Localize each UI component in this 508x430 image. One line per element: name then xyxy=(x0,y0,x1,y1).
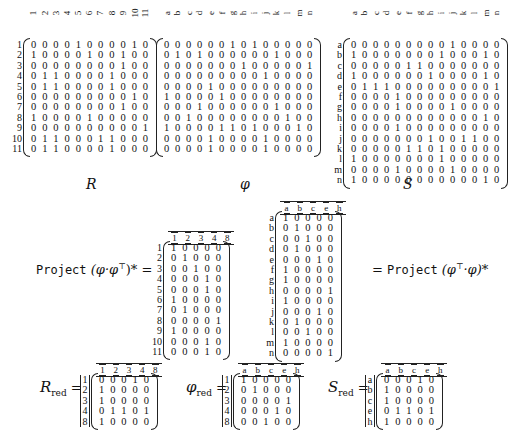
matrix-cell: 0 xyxy=(314,348,325,358)
matrix-row: 00000000010000 xyxy=(348,40,502,50)
column-label: h xyxy=(425,8,436,18)
matrix-cell: 0 xyxy=(172,144,183,154)
project-word-left: Project xyxy=(36,263,87,277)
matrix-cell: 0 xyxy=(50,123,61,133)
column-label: 8 xyxy=(106,8,117,18)
matrix-row: 00001000010000 xyxy=(348,165,502,175)
matrix-row: 10000 xyxy=(168,326,224,336)
column-label: c xyxy=(183,8,194,18)
matrix-cell: 1 xyxy=(168,326,179,336)
column-label: c xyxy=(370,8,381,18)
column-label: l xyxy=(282,8,293,18)
matrix-cell: 0 xyxy=(202,326,213,336)
matrix-row: 10000110100010 xyxy=(161,123,315,133)
caption-S: S xyxy=(403,176,413,192)
column-label: f xyxy=(403,8,414,18)
matrix-cell: 0 xyxy=(302,296,313,306)
column-label: d xyxy=(194,8,205,18)
column-label: i xyxy=(436,8,447,18)
right-parenthesis xyxy=(436,373,443,430)
matrix-row: 00010000001000 xyxy=(161,102,315,112)
matrix-cell: 0 xyxy=(291,348,302,358)
matrix-cell: 0 xyxy=(238,144,249,154)
matrix-cell: 0 xyxy=(190,326,201,336)
matrix-cell: 0 xyxy=(28,144,39,154)
matrix-body: 0000100001010000100100000000001000110000… xyxy=(28,40,151,154)
right-parenthesis xyxy=(151,373,158,430)
row-labels: abcdefghijklmn xyxy=(330,40,342,186)
matrix-cell: 0 xyxy=(469,123,480,133)
column-label: h xyxy=(238,8,249,18)
row-label: 11 xyxy=(2,144,22,154)
column-label: n xyxy=(304,8,315,18)
matrix-cell: 0 xyxy=(425,175,436,185)
matrix-body: 1000001000001000100000010100001000000001… xyxy=(280,213,336,358)
matrix-cell: 0 xyxy=(291,296,302,306)
matrix-cell: 1 xyxy=(392,123,403,133)
label-phired: φred = xyxy=(186,378,227,398)
matrix-row: 00001000010000 xyxy=(161,134,315,144)
matrix-cell: 0 xyxy=(425,123,436,133)
matrix-cell: 1 xyxy=(106,144,117,154)
row-label: n xyxy=(330,175,342,185)
column-label: f xyxy=(216,8,227,18)
matrix-cell: 0 xyxy=(260,123,271,133)
matrix-row: 01000 xyxy=(280,244,336,254)
column-label: b xyxy=(172,8,183,18)
matrix-cell: 0 xyxy=(436,123,447,133)
matrix-row: 01010000001000 xyxy=(161,50,315,60)
matrix-cell: 0 xyxy=(249,144,260,154)
caption-phi: φ xyxy=(240,176,250,192)
matrix-cell: 0 xyxy=(272,417,283,427)
matrix-cell: 0 xyxy=(392,175,403,185)
matrix-cell: 1 xyxy=(50,144,61,154)
column-label: m xyxy=(293,8,304,18)
matrix-cell: 0 xyxy=(280,348,291,358)
matrix-cell: 0 xyxy=(213,347,224,357)
matrix-row: 10000001000010 xyxy=(348,71,502,81)
column-label: e xyxy=(205,8,216,18)
matrix-row: 00100 xyxy=(238,417,294,427)
column-label: e xyxy=(392,8,403,18)
matrix-cell: 0 xyxy=(39,123,50,133)
column-label: b xyxy=(359,8,370,18)
row-labels: 1234567891011 xyxy=(148,243,162,357)
matrix-cell: 0 xyxy=(447,175,458,185)
matrix-cell: 0 xyxy=(84,144,95,154)
row-labels: abcdefghijklmn xyxy=(262,213,274,359)
equation-left: Project (φ·φ⊤)* = xyxy=(36,262,152,277)
matrix-cell: 1 xyxy=(249,123,260,133)
matrix-row: 00000001000001 xyxy=(161,61,315,71)
row-labels: 12348 xyxy=(80,375,90,427)
matrix-cell: 0 xyxy=(190,347,201,357)
column-label: 4 xyxy=(62,8,73,18)
matrix-cell: 0 xyxy=(141,417,152,427)
column-labels: abcdefghijklmn xyxy=(161,8,315,18)
column-label: m xyxy=(480,8,491,18)
column-label: j xyxy=(260,8,271,18)
matrix-cell: 0 xyxy=(172,123,183,133)
row-labels: abceh xyxy=(365,375,375,427)
matrix-cell: 1 xyxy=(161,123,172,133)
matrix-cell: 0 xyxy=(491,123,502,133)
row-label: 11 xyxy=(148,347,162,357)
right-parenthesis xyxy=(223,241,230,360)
matrix-cell: 1 xyxy=(260,417,271,427)
matrix-row: 01100001000 xyxy=(28,71,151,81)
matrix-cell: 0 xyxy=(414,175,425,185)
matrix-body: 0000001010000001010000001000000000010000… xyxy=(161,40,315,154)
row-label: 8 xyxy=(80,417,90,427)
matrix-row: 10000 xyxy=(96,417,152,427)
matrix-cell: 1 xyxy=(39,144,50,154)
column-label: 2 xyxy=(39,8,50,18)
matrix-cell: 0 xyxy=(129,144,140,154)
matrix-row: 10000 xyxy=(381,417,437,427)
matrix-cell: 1 xyxy=(140,123,151,133)
matrix-cell: 0 xyxy=(414,123,425,133)
column-label: d xyxy=(381,8,392,18)
matrix-cell: 0 xyxy=(95,123,106,133)
column-label: g xyxy=(227,8,238,18)
matrix-cell: 0 xyxy=(403,123,414,133)
row-label: 8 xyxy=(222,417,232,427)
matrix-cell: 0 xyxy=(325,296,336,306)
